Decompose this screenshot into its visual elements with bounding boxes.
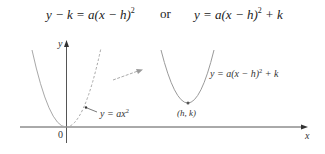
y-axis-label: y (58, 38, 62, 49)
shift-arrow-head-icon (136, 69, 143, 74)
y-axis-arrow-icon (64, 40, 69, 47)
label-pointer-original (87, 108, 97, 112)
pointer-dot-icon (85, 106, 87, 108)
label-original-exponent: 2 (126, 107, 129, 114)
origin-label: 0 (58, 129, 63, 140)
label-original-base: y = ax (100, 108, 126, 119)
parabola-shifted (161, 50, 214, 103)
label-shifted-parabola: y = a(x − h)2 + k (210, 67, 278, 79)
label-shifted-base: y = a(x − h) (210, 68, 259, 79)
vertex-label: (h, k) (177, 108, 196, 118)
label-shifted-suffix: + k (262, 68, 278, 79)
shift-arrow (113, 71, 138, 80)
parabola-original-left-arm (32, 50, 66, 127)
parabola-original-right-arm (66, 48, 101, 127)
x-axis-label: x (305, 130, 309, 141)
label-original-parabola: y = ax2 (100, 107, 129, 119)
x-axis-arrow-icon (301, 125, 308, 130)
vertex-point (187, 102, 190, 105)
